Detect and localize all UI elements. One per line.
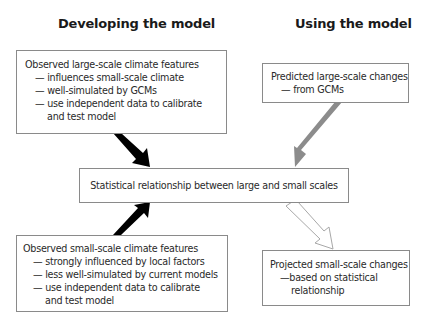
box-title: Predicted large-scale changes bbox=[271, 70, 408, 83]
bullet: — use independent data to calibrate bbox=[23, 281, 227, 294]
arrow-small-to-statistical bbox=[113, 202, 150, 235]
bullet: — use independent data to calibrate bbox=[25, 97, 226, 110]
bullet-continuation: and test model bbox=[25, 110, 226, 123]
bullet-continuation: relationship bbox=[270, 284, 409, 297]
bullet: — from GCMs bbox=[271, 83, 408, 96]
bullet: —based on statistical bbox=[270, 271, 409, 284]
bullet: — well-simulated by GCMs bbox=[25, 84, 226, 97]
bullet: — less well-simulated by current models bbox=[23, 268, 227, 281]
box-predicted-large-scale: Predicted large-scale changes — from GCM… bbox=[262, 63, 409, 103]
bullet: — influences small-scale climate bbox=[25, 71, 226, 84]
box-title: Observed large-scale climate features bbox=[25, 58, 226, 71]
box-observed-small-scale: Observed small-scale climate features — … bbox=[16, 235, 228, 312]
box-statistical-relationship: Statistical relationship between large a… bbox=[79, 168, 349, 203]
box-title: Projected small-scale changes bbox=[270, 258, 409, 271]
box-title: Observed small-scale climate features bbox=[23, 242, 227, 255]
bullet-continuation: and test model bbox=[23, 294, 227, 307]
box-projected-small-scale: Projected small-scale changes —based on … bbox=[262, 250, 410, 306]
arrow-predicted-to-statistical bbox=[294, 102, 342, 167]
arrow-large-to-statistical bbox=[113, 133, 150, 167]
box-observed-large-scale: Observed large-scale climate features — … bbox=[16, 50, 227, 134]
arrow-statistical-to-projected bbox=[286, 202, 333, 249]
bullet: — strongly influenced by local factors bbox=[23, 255, 227, 268]
box-title: Statistical relationship between large a… bbox=[80, 179, 348, 192]
